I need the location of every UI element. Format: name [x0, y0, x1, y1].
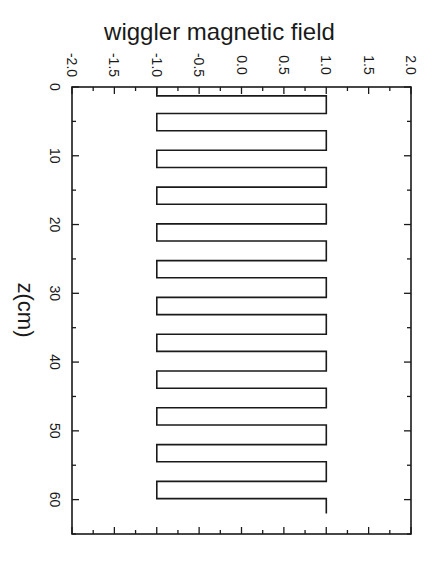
- field-tick-label: -0.5: [191, 53, 207, 77]
- plot-frame: [72, 87, 411, 534]
- field-tick-label: 1.0: [318, 55, 334, 75]
- field-tick-label: -1.5: [106, 53, 122, 77]
- field-tick-label: 2.0: [403, 55, 419, 75]
- z-tick-label: 10: [47, 148, 63, 164]
- z-tick-label: 60: [47, 492, 63, 508]
- z-tick-label: 40: [47, 354, 63, 370]
- field-tick-label: -2.0: [64, 53, 80, 77]
- plot-border: [72, 87, 411, 534]
- z-tick-label: 30: [47, 286, 63, 302]
- field-tick-label: -1.0: [149, 53, 165, 77]
- plot-area: -2.0-1.5-1.0-0.50.00.51.01.52.0 01020304…: [0, 0, 439, 568]
- wiggler-field-waveform: [157, 87, 326, 513]
- z-tick-label: 0: [47, 83, 63, 91]
- field-tick-label: 0.0: [234, 55, 250, 75]
- z-axis-title: z(cm): [13, 283, 38, 338]
- axis-ticks: [72, 87, 411, 534]
- z-tick-label: 50: [47, 423, 63, 439]
- field-tick-label: 0.5: [276, 55, 292, 75]
- field-tick-label: 1.5: [361, 55, 377, 75]
- z-tick-label: 20: [47, 217, 63, 233]
- z-axis-tick-labels: 0102030405060: [47, 83, 63, 508]
- field-axis-tick-labels: -2.0-1.5-1.0-0.50.00.51.01.52.0: [64, 53, 419, 77]
